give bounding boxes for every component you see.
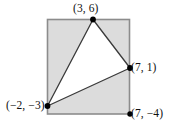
geometry-figure: (3, 6) (7, 1) (−2, −3) (7, −4) bbox=[0, 0, 172, 128]
vertex-label-p4: (7, −4) bbox=[131, 107, 163, 119]
vertex-label-p3: (−2, −3) bbox=[6, 99, 45, 111]
vertex-point-p3 bbox=[45, 103, 51, 109]
vertex-label-p2: (7, 1) bbox=[131, 61, 157, 73]
vertex-label-p1: (3, 6) bbox=[73, 2, 99, 14]
vertex-point-p1 bbox=[90, 17, 96, 23]
